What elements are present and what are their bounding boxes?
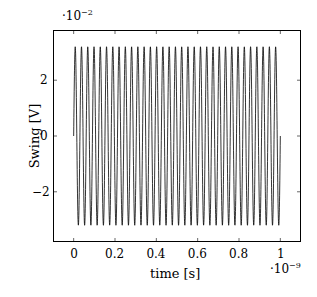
x-tick-label: 0: [70, 248, 78, 260]
x-exp-base: ·10: [270, 262, 289, 276]
y-exp-power: −2: [81, 8, 93, 17]
y-axis-label: Swing [V]: [27, 104, 42, 169]
x-tick-label: 0.4: [146, 248, 165, 260]
x-tick-label: 0.6: [188, 248, 207, 260]
x-tick-label: 0.8: [229, 248, 248, 260]
y-tick-label: −2: [32, 186, 50, 198]
series-line: [74, 47, 281, 226]
x-axis-multiplier: ·10−9: [270, 261, 301, 276]
y-tick-label: 2: [40, 74, 48, 86]
x-exp-power: −9: [289, 261, 301, 270]
x-tick-label: 1: [277, 248, 285, 260]
y-exp-base: ·10: [62, 9, 81, 23]
x-tick-label: 0.2: [105, 248, 124, 260]
x-axis-label: time [s]: [150, 266, 200, 281]
y-axis-multiplier: ·10−2: [62, 8, 93, 23]
